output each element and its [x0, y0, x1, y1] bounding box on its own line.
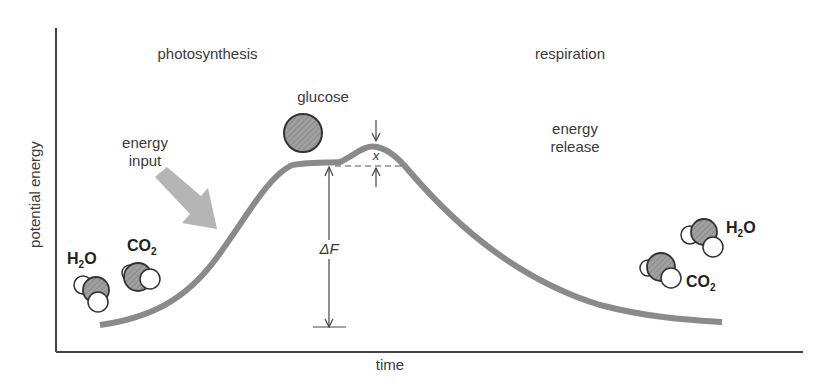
- right-water-formula: H2O: [726, 219, 756, 239]
- right-co2-formula: CO2: [686, 273, 716, 293]
- left-co2-molecule-icon: [122, 263, 160, 291]
- formula-base: CO: [686, 273, 710, 290]
- glucose-molecule-icon: [284, 114, 322, 152]
- energy-diagram: [0, 0, 828, 389]
- x-axis-label: time: [370, 356, 410, 374]
- formula-base: H: [67, 250, 79, 267]
- energy-input-line-2: input: [110, 152, 180, 170]
- energy-input-arrow-icon: [155, 167, 217, 229]
- phase-label-respiration: respiration: [520, 45, 620, 63]
- energy-release-line-2: release: [540, 138, 610, 156]
- energy-curve: [100, 146, 722, 325]
- right-co2-molecule-icon: [640, 253, 681, 288]
- energy-input-line-1: energy: [110, 134, 180, 152]
- phase-label-photosynthesis: photosynthesis: [140, 45, 275, 63]
- formula-tail: O: [743, 219, 755, 236]
- delta-f-label: ΔF: [316, 240, 342, 258]
- formula-sub: 2: [710, 282, 716, 293]
- formula-sub: 2: [151, 246, 157, 257]
- formula-tail: O: [84, 250, 96, 267]
- left-water-molecule-icon: [74, 276, 109, 312]
- energy-input-label: energy input: [110, 134, 180, 170]
- activation-x-label: x: [368, 147, 384, 165]
- left-water-formula: H2O: [67, 250, 97, 270]
- formula-base: CO: [127, 237, 151, 254]
- energy-release-line-1: energy: [540, 120, 610, 138]
- formula-base: H: [726, 219, 738, 236]
- y-axis-label: potential energy: [26, 135, 43, 255]
- left-co2-formula: CO2: [127, 237, 157, 257]
- glucose-label: glucose: [288, 88, 358, 106]
- energy-release-label: energy release: [540, 120, 610, 156]
- right-water-molecule-icon: [681, 219, 723, 257]
